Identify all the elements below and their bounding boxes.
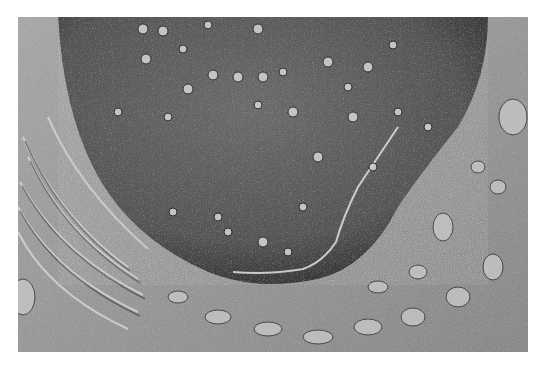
- micrograph-image: [18, 17, 528, 352]
- micrograph-rendering: [18, 17, 528, 352]
